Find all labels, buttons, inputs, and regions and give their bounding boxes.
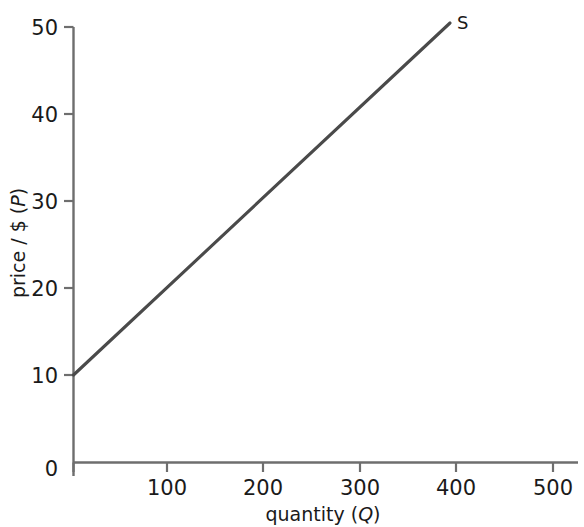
- x-axis-title-variable: Q: [358, 503, 373, 525]
- chart-canvas: 50 40 30 20 10 0 100 200 300 400 500 S p…: [0, 0, 584, 527]
- y-tick-label-30: 30: [31, 190, 58, 214]
- x-axis-title-text: quantity (: [265, 503, 358, 525]
- x-axis-title-tail: ): [373, 503, 380, 525]
- x-tick-label-200: 200: [243, 476, 283, 500]
- y-tick-label-20: 20: [31, 277, 58, 301]
- y-axis-title-variable: P: [7, 195, 29, 207]
- y-axis-title-tail: ): [7, 188, 29, 195]
- x-axis-title: quantity (Q): [265, 503, 380, 525]
- chart-background: [0, 0, 584, 527]
- y-axis-title: price / $ (P): [7, 188, 29, 298]
- x-tick-label-100: 100: [147, 476, 187, 500]
- x-tick-label-400: 400: [436, 476, 476, 500]
- y-tick-label-40: 40: [31, 103, 58, 127]
- supply-curve-label: S: [457, 12, 468, 33]
- svg-text:price / $ (P): price / $ (P): [7, 188, 29, 298]
- supply-curve-chart: 50 40 30 20 10 0 100 200 300 400 500 S p…: [0, 0, 584, 527]
- origin-tick-label-0: 0: [45, 457, 58, 481]
- y-axis-title-text: price / $ (: [7, 207, 29, 298]
- y-tick-label-10: 10: [31, 364, 58, 388]
- x-tick-label-300: 300: [340, 476, 380, 500]
- svg-text:quantity (Q): quantity (Q): [265, 503, 380, 525]
- x-tick-label-500: 500: [533, 476, 573, 500]
- y-tick-label-50: 50: [31, 16, 58, 40]
